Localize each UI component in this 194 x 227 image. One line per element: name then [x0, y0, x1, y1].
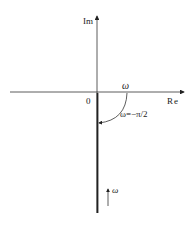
imaginary-axis-label: Im: [83, 16, 93, 26]
real-axis-label: Re: [167, 96, 179, 106]
arc-omega-label: ω: [122, 80, 129, 91]
nyquist-diagram: Im Re 0 ω ω=−π/2 ω: [0, 0, 194, 227]
origin-label: 0: [86, 96, 91, 106]
phase-label: ω=−π/2: [120, 109, 148, 119]
direction-omega-label: ω: [112, 185, 118, 195]
